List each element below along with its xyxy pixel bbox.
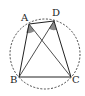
label-C: C — [72, 74, 80, 85]
circumcircle — [10, 19, 80, 89]
label-D: D — [52, 7, 60, 18]
geometry-figure: A D B C — [0, 0, 85, 96]
segment-DC — [54, 21, 71, 77]
label-A: A — [20, 12, 29, 23]
label-B: B — [10, 74, 17, 85]
